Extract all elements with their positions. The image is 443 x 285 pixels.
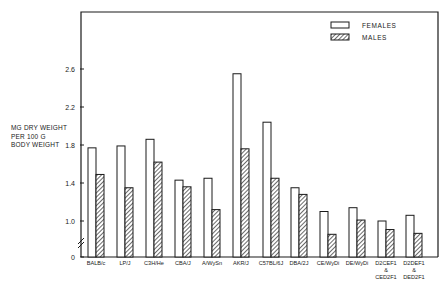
y-tick-label: 1.4 [65,180,75,187]
x-tick-label: C57BL/6J [259,260,284,266]
female-bar [88,148,96,257]
x-tick-label: & [384,267,388,273]
legend-label: MALES [362,34,387,41]
male-bar [125,188,133,257]
x-tick-label: C3H/He [144,260,164,266]
legend: FEMALESMALES [331,22,397,41]
y-axis-title-line: BODY WEIGHT [11,141,59,148]
female-bar [291,188,299,257]
female-bar [349,208,357,257]
x-tick-label: & [412,267,416,273]
x-tick-label: BALB/c [87,260,106,266]
female-bar [204,178,212,257]
male-bar [299,194,307,257]
bar-chart: 01.01.41.82.22.6 BALB/cLP/JC3H/HeCBA/JA/… [0,0,443,285]
bars [88,74,422,257]
y-axis-title-line: PER 100 G [11,133,46,140]
legend-swatch-males [331,34,349,40]
male-bar [154,162,162,257]
male-bar [96,174,104,257]
x-tick-label: CE/WyDi [317,260,340,266]
x-tick-label: LP/J [119,260,130,266]
female-bar [406,215,414,257]
x-tick-label: A/WySn [202,260,222,266]
female-bar [233,74,241,257]
male-bar [212,210,220,257]
y-axis-label: MG DRY WEIGHTPER 100 GBODY WEIGHT [11,124,67,148]
male-bar [271,178,279,257]
plot-frame [81,12,438,257]
y-tick-label: 1.8 [65,142,75,149]
y-tick-label: 2.6 [65,66,75,73]
y-axis-title-line: MG DRY WEIGHT [11,124,67,131]
y-tick-label: 0 [71,254,75,261]
y-tick-label: 1.0 [65,218,75,225]
x-tick-label: DE/WyDi [346,260,369,266]
legend-swatch-females [331,22,349,28]
male-bar [328,234,336,257]
frame-border [81,12,438,257]
x-axis-labels: BALB/cLP/JC3H/HeCBA/JA/WySnAKR/JC57BL/6J… [87,260,425,280]
x-tick-label: AKR/J [233,260,249,266]
female-bar [117,146,125,257]
legend-label: FEMALES [362,22,397,29]
x-tick-label: CBA/J [175,260,191,266]
male-bar [386,230,394,257]
female-bar [320,212,328,258]
male-bar [183,187,191,257]
y-tick-label: 2.2 [65,104,75,111]
female-bar [378,221,386,257]
male-bar [357,220,365,257]
female-bar [146,139,154,257]
female-bar [175,180,183,257]
x-tick-label: CED2F1 [375,274,396,280]
male-bar [414,233,422,257]
female-bar [263,122,271,257]
x-tick-label: D2DEF1 [403,260,424,266]
x-tick-label: DED2F1 [403,274,424,280]
male-bar [241,149,249,257]
x-tick-label: DBA/2J [290,260,309,266]
x-tick-label: D2CEF1 [375,260,396,266]
